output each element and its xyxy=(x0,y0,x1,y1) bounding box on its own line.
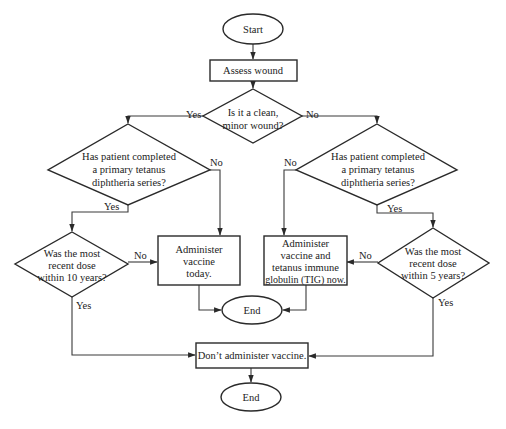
label-series-right-no: No xyxy=(284,157,297,168)
node-series-left-line2: a primary tetanus xyxy=(93,164,166,175)
label-clean-no: No xyxy=(306,109,319,120)
node-dont-administer: Don’t administer vaccine. xyxy=(196,343,308,368)
node-vaccine-tig-line1: Administer xyxy=(282,238,330,249)
flowchart: Yes No No Yes No Yes No Yes No Yes Start… xyxy=(0,0,506,429)
edge-series-right-yes xyxy=(377,205,433,227)
node-dont-text: Don’t administer vaccine. xyxy=(198,350,307,361)
node-end-middle-text: End xyxy=(244,305,262,316)
node-vaccine-tig-line2: vaccine and xyxy=(281,250,332,261)
edge-series-left-yes xyxy=(72,205,128,231)
node-series-left-line1: Has patient completed xyxy=(82,151,177,162)
node-series-right-decision: Has patient completed a primary tetanus … xyxy=(296,124,457,205)
node-vaccine-today-line2: vaccine xyxy=(183,256,215,267)
node-recent5-line2: recent dose xyxy=(409,258,457,269)
node-recent10-decision: Was the most recent dose within 10 years… xyxy=(15,232,128,297)
node-assess-wound: Assess wound xyxy=(210,60,297,81)
node-vaccine-tig-line4: globulin (TIG) now. xyxy=(265,274,346,286)
label-series-right-yes: Yes xyxy=(387,203,402,214)
node-start-text: Start xyxy=(243,24,263,35)
node-assess-text: Assess wound xyxy=(223,65,284,76)
node-vaccine-today-line3: today. xyxy=(186,268,211,279)
edge-series-right-no xyxy=(284,170,296,235)
edge-series-left-no xyxy=(210,170,220,235)
node-vaccine-tig-line3: tetanus immune xyxy=(272,262,339,273)
label-series-left-yes: Yes xyxy=(104,201,119,212)
node-vaccine-today-line1: Administer xyxy=(175,244,223,255)
node-end-bottom-text: End xyxy=(243,392,261,403)
label-recent5-no: No xyxy=(359,250,372,261)
label-recent10-yes: Yes xyxy=(76,300,91,311)
node-vaccine-today: Administer vaccine today. xyxy=(158,236,240,285)
label-series-left-no: No xyxy=(210,157,223,168)
node-recent5-line1: Was the most xyxy=(405,246,461,257)
node-recent10-line3: within 10 years? xyxy=(37,272,107,283)
node-end-middle: End xyxy=(222,296,282,324)
node-series-right-line1: Has patient completed xyxy=(331,151,426,162)
edge-recent5-yes xyxy=(309,298,433,356)
node-series-right-line3: diphtheria series? xyxy=(341,177,415,188)
edge-today-end xyxy=(199,285,221,310)
node-series-right-line2: a primary tetanus xyxy=(342,164,415,175)
edge-tig-end xyxy=(283,285,306,310)
node-clean-wound-decision: Is it a clean, minor wound? xyxy=(203,89,302,143)
label-recent10-no: No xyxy=(134,250,147,261)
node-end-bottom: End xyxy=(221,383,281,411)
node-recent10-line2: recent dose xyxy=(48,260,96,271)
node-series-left-decision: Has patient completed a primary tetanus … xyxy=(48,124,210,205)
node-clean-line2: minor wound? xyxy=(223,120,284,131)
node-recent5-line3: within 5 years? xyxy=(401,270,465,281)
node-clean-line1: Is it a clean, xyxy=(228,107,279,118)
node-start: Start xyxy=(223,14,283,44)
node-series-left-line3: diphtheria series? xyxy=(92,177,166,188)
node-vaccine-tig: Administer vaccine and tetanus immune gl… xyxy=(264,236,347,286)
node-recent10-line1: Was the most xyxy=(44,248,100,259)
label-recent5-yes: Yes xyxy=(438,297,453,308)
label-clean-yes: Yes xyxy=(186,109,201,120)
node-recent5-decision: Was the most recent dose within 5 years? xyxy=(378,228,489,298)
